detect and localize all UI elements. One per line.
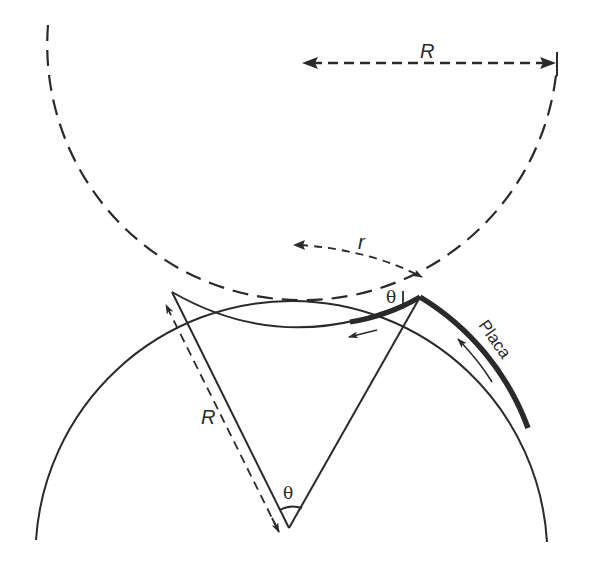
side-radius-arrow-head-bottom	[272, 518, 279, 532]
side-radius-dashed-arrow	[166, 305, 278, 530]
plate-label: Placa	[475, 316, 515, 362]
upper-circle-dashed	[47, 25, 557, 300]
contact-angle-label: θ	[386, 287, 396, 307]
inner-contact-arc	[172, 292, 420, 327]
center-angle-label: θ	[283, 483, 293, 503]
inner-motion-arrow	[349, 330, 377, 337]
radius-line-left	[172, 292, 289, 528]
plate-segment	[420, 297, 528, 428]
arc-length-label: r	[358, 231, 366, 253]
plate-contact-diagram: θ θ R R r Placa	[0, 0, 590, 562]
top-radius-label: R	[420, 40, 434, 62]
radius-line-right	[289, 297, 420, 528]
side-radius-label: R	[201, 406, 215, 428]
